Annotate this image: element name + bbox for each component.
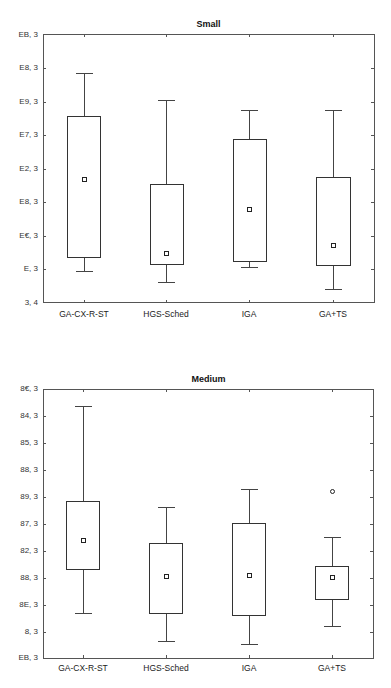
whisker-cap-top: [324, 537, 341, 538]
x-tick: [332, 655, 333, 658]
whisker-cap-bottom: [158, 641, 175, 642]
y-tick: [370, 443, 373, 444]
y-tick-label: 8€, 3: [2, 384, 38, 394]
y-tick: [370, 497, 373, 498]
x-tick: [249, 389, 250, 392]
mean-marker: [164, 574, 169, 579]
iqr-box: [66, 501, 100, 570]
x-tick: [332, 389, 333, 392]
x-tick: [166, 655, 167, 658]
iqr-box: [232, 523, 266, 616]
y-tick: [43, 416, 46, 417]
y-tick-label: 8, 3: [2, 627, 38, 637]
x-label: GA+TS: [292, 663, 372, 673]
y-tick-label: 88, 3: [2, 573, 38, 583]
y-tick: [370, 578, 373, 579]
y-tick-label: EB, 3: [2, 653, 38, 663]
mean-marker: [81, 538, 86, 543]
medium-chart-panel: Medium 8€, 3 84, 3 85, 3 88, 3 89, 3 87,…: [0, 0, 391, 688]
y-tick: [43, 443, 46, 444]
y-tick: [43, 632, 46, 633]
outlier-marker: [330, 489, 335, 494]
y-tick: [43, 578, 46, 579]
y-tick: [370, 416, 373, 417]
whisker-cap-bottom: [241, 644, 258, 645]
y-tick: [43, 605, 46, 606]
x-tick: [83, 389, 84, 392]
whisker-cap-top: [75, 406, 92, 407]
y-tick-label: 84, 3: [2, 411, 38, 421]
y-tick: [43, 551, 46, 552]
x-label: HGS-Sched: [126, 663, 206, 673]
y-tick: [43, 470, 46, 471]
mean-marker: [247, 573, 252, 578]
x-label: GA-CX-R-ST: [43, 663, 123, 673]
y-tick-label: 88, 3: [2, 465, 38, 475]
whisker-cap-top: [241, 489, 258, 490]
y-tick: [370, 551, 373, 552]
y-tick-label: 85, 3: [2, 438, 38, 448]
y-tick: [370, 470, 373, 471]
y-tick-label: 82, 3: [2, 546, 38, 556]
whisker-cap-top: [158, 507, 175, 508]
y-tick: [370, 605, 373, 606]
y-tick-label: 87, 3: [2, 519, 38, 529]
whisker-cap-bottom: [75, 613, 92, 614]
x-tick: [166, 389, 167, 392]
x-tick: [249, 655, 250, 658]
chart-title: Medium: [43, 374, 374, 384]
y-tick-label: 89, 3: [2, 492, 38, 502]
mean-marker: [330, 575, 335, 580]
y-tick: [370, 632, 373, 633]
x-tick: [83, 655, 84, 658]
y-tick: [43, 524, 46, 525]
y-tick: [43, 497, 46, 498]
x-label: IGA: [209, 663, 289, 673]
y-tick: [370, 524, 373, 525]
y-tick-label: 8E, 3: [2, 600, 38, 610]
whisker-cap-bottom: [324, 626, 341, 627]
iqr-box: [315, 566, 349, 600]
